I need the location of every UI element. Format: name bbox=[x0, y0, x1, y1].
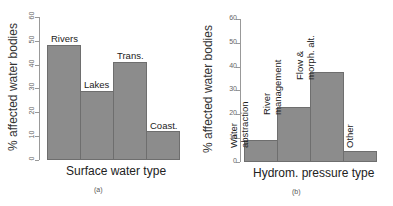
y-tick-a bbox=[35, 41, 39, 42]
bar-label-line: morph. alt. bbox=[305, 35, 316, 80]
bar-label-line: Flow & bbox=[294, 35, 305, 80]
bar-river-management bbox=[277, 107, 311, 162]
y-tick-label-a: 20 bbox=[28, 104, 35, 118]
bar-label-line: abstraction bbox=[239, 102, 250, 148]
bar-transitional bbox=[113, 62, 147, 160]
x-axis-label-a: Surface water type bbox=[66, 164, 166, 178]
bar-label-trans: Trans. bbox=[117, 50, 144, 61]
bar-label-other: Other bbox=[344, 124, 355, 148]
bar-label-line: Water bbox=[228, 102, 239, 148]
bar-label-line: Other bbox=[344, 124, 355, 148]
y-tick-label-a: 0 bbox=[28, 152, 35, 166]
bar-label-water-abstraction: Water abstraction bbox=[228, 102, 250, 148]
bar-label-coast: Coast. bbox=[150, 120, 177, 131]
y-tick-label-a: 10 bbox=[28, 128, 35, 142]
bar-label-line: River bbox=[261, 60, 272, 115]
y-tick-label-b: 50 bbox=[223, 38, 237, 45]
y-tick-a bbox=[35, 136, 39, 137]
y-tick-label-a: 50 bbox=[28, 33, 35, 47]
y-tick-label-b: 60 bbox=[223, 14, 237, 21]
y-tick-a bbox=[35, 88, 39, 89]
chart-panel-b: % affected water bodies 0 10 20 30 40 50… bbox=[195, 0, 393, 206]
y-axis-a bbox=[39, 17, 40, 160]
bar-label-river-management: River management bbox=[261, 60, 283, 115]
panel-sublabel-b: (b) bbox=[292, 188, 301, 195]
y-tick-a bbox=[35, 160, 39, 161]
x-axis-label-b: Hydrom. pressure type bbox=[253, 166, 374, 180]
bar-other bbox=[343, 151, 377, 162]
chart-panel-a: % affected water bodies 0 10 20 30 40 50… bbox=[0, 0, 195, 206]
bar-label-line: management bbox=[272, 60, 283, 115]
bar-label-lakes: Lakes bbox=[84, 79, 109, 90]
y-tick-a bbox=[35, 17, 39, 18]
y-axis-label-b: % affected water bodies bbox=[201, 24, 215, 154]
y-tick-a bbox=[35, 112, 39, 113]
bar-rivers bbox=[47, 45, 81, 160]
bar-coastal bbox=[146, 131, 180, 160]
bar-label-flow-morph: Flow & morph. alt. bbox=[294, 35, 316, 80]
bar-label-rivers: Rivers bbox=[51, 33, 78, 44]
bar-lakes bbox=[80, 91, 114, 160]
y-tick-label-b: 30 bbox=[223, 85, 237, 92]
y-axis-label-a: % affected water bodies bbox=[6, 22, 20, 152]
y-tick-label-b: 40 bbox=[223, 62, 237, 69]
bar-flow-morph bbox=[310, 72, 344, 162]
y-tick-a bbox=[35, 65, 39, 66]
panel-sublabel-a: (a) bbox=[94, 186, 103, 193]
y-tick-label-a: 60 bbox=[28, 9, 35, 23]
y-tick-label-b: 0 bbox=[223, 157, 237, 164]
y-tick-label-a: 40 bbox=[28, 57, 35, 71]
y-tick-label-a: 30 bbox=[28, 80, 35, 94]
